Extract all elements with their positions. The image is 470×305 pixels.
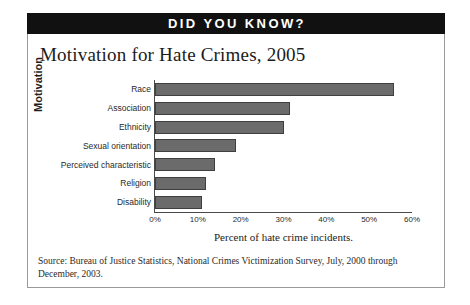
bar xyxy=(155,158,215,171)
y-axis-label: Ethnicity xyxy=(119,123,151,132)
x-axis-tick: 0% xyxy=(149,215,161,224)
banner-title: DID YOU KNOW? xyxy=(166,16,306,31)
y-axis-label: Perceived characteristic xyxy=(61,161,151,170)
x-axis-tick: 50% xyxy=(361,215,377,224)
y-axis-label: Sexual orientation xyxy=(83,142,151,151)
x-axis-tick-labels: 0%10%20%30%40%50%60% xyxy=(155,215,412,227)
bar-row xyxy=(155,137,412,156)
bar-row xyxy=(155,99,412,118)
y-axis-category-labels: RaceAssociationEthnicitySexual orientati… xyxy=(45,80,151,212)
x-axis-title: Percent of hate crime incidents. xyxy=(155,231,412,243)
y-axis-label-row: Perceived characteristic xyxy=(45,155,151,174)
y-axis-label: Association xyxy=(108,104,151,113)
bar-row xyxy=(155,118,412,137)
bar-row xyxy=(155,174,412,193)
bar xyxy=(155,196,202,209)
chart-title: Motivation for Hate Crimes, 2005 xyxy=(40,44,306,66)
bar-row xyxy=(155,80,412,99)
y-axis-title: Motivation xyxy=(32,100,44,112)
plot-area xyxy=(155,80,412,212)
y-axis-label-row: Ethnicity xyxy=(45,118,151,137)
bar xyxy=(155,177,206,190)
bar-row xyxy=(155,155,412,174)
y-axis-label: Religion xyxy=(120,179,151,188)
x-axis-tick: 60% xyxy=(404,215,420,224)
x-axis-tick: 40% xyxy=(318,215,334,224)
bar xyxy=(155,139,236,152)
bar-series xyxy=(155,80,412,212)
x-axis-tick: 10% xyxy=(190,215,206,224)
x-axis-tick: 20% xyxy=(233,215,249,224)
x-axis-tick: 30% xyxy=(275,215,291,224)
y-axis-label: Disability xyxy=(117,198,151,207)
y-axis-label-row: Disability xyxy=(45,193,151,212)
bar xyxy=(155,102,290,115)
y-axis-label: Race xyxy=(131,85,151,94)
did-you-know-infographic: DID YOU KNOW? Motivation for Hate Crimes… xyxy=(0,0,470,305)
bar-row xyxy=(155,193,412,212)
y-axis-label-row: Sexual orientation xyxy=(45,137,151,156)
bar xyxy=(155,83,394,96)
y-axis-label-row: Race xyxy=(45,80,151,99)
y-axis-label-row: Association xyxy=(45,99,151,118)
y-axis-label-row: Religion xyxy=(45,174,151,193)
x-axis-line xyxy=(155,212,412,213)
banner-header: DID YOU KNOW? xyxy=(27,13,445,34)
bar xyxy=(155,121,284,134)
source-note: Source: Bureau of Justice Statistics, Na… xyxy=(38,255,408,280)
